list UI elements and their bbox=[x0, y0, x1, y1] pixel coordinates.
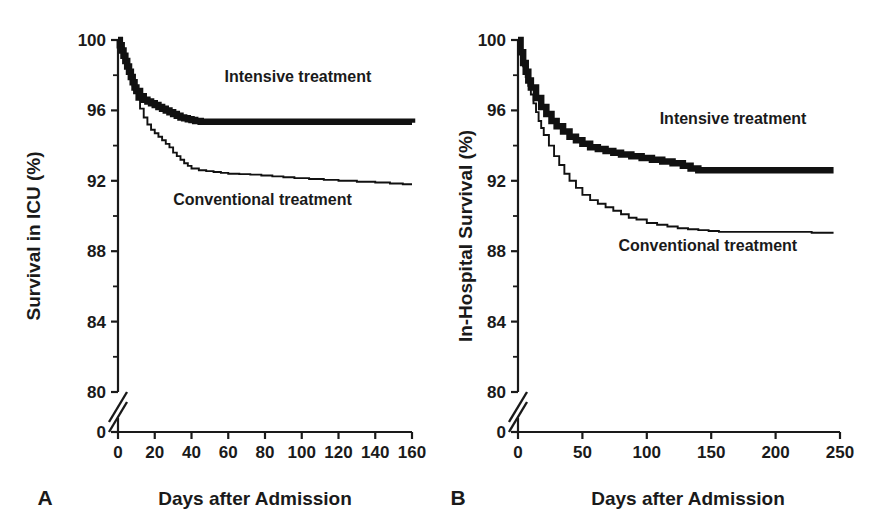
x-tick-label: 160 bbox=[398, 443, 426, 462]
curve-conventional bbox=[118, 40, 412, 184]
y-tick-label: 92 bbox=[487, 172, 506, 191]
panel-b-x-axis-title: Days after Admission bbox=[591, 488, 785, 509]
x-tick-label: 50 bbox=[573, 443, 592, 462]
panel-b-y-axis-title: In-Hospital Survival (%) bbox=[455, 130, 476, 342]
y-tick-label: 84 bbox=[487, 313, 506, 332]
panel-b-intensive-label: Intensive treatment bbox=[660, 110, 807, 127]
y-tick-label: 88 bbox=[487, 242, 506, 261]
panel-a-curves bbox=[118, 40, 412, 184]
panel-a-intensive-label: Intensive treatment bbox=[225, 68, 372, 85]
y-tick-label: 92 bbox=[87, 172, 106, 191]
y-tick-label: 88 bbox=[87, 242, 106, 261]
panel-b-letter: B bbox=[450, 486, 465, 509]
y-axis-break-zero-label: 0 bbox=[97, 423, 106, 442]
x-tick-label: 60 bbox=[219, 443, 238, 462]
x-tick-label: 100 bbox=[288, 443, 316, 462]
y-tick-label: 100 bbox=[478, 31, 506, 50]
x-tick-label: 0 bbox=[513, 443, 522, 462]
panel-b-plot: 80848892961000050100150200250 In-Hospita… bbox=[440, 0, 878, 528]
y-axis-break-zero-label: 0 bbox=[497, 423, 506, 442]
y-tick-label: 96 bbox=[87, 101, 106, 120]
curve-intensive bbox=[518, 40, 834, 170]
panel-b-conventional-label: Conventional treatment bbox=[618, 237, 797, 254]
x-tick-label: 20 bbox=[145, 443, 164, 462]
panel-a-y-axis-title: Survival in ICU (%) bbox=[23, 152, 44, 321]
x-tick-label: 0 bbox=[113, 443, 122, 462]
panel-a-x-axis-title: Days after Admission bbox=[158, 488, 352, 509]
y-tick-label: 80 bbox=[487, 383, 506, 402]
x-tick-label: 140 bbox=[361, 443, 389, 462]
y-tick-label: 80 bbox=[87, 383, 106, 402]
panel-a-letter: A bbox=[37, 486, 52, 509]
panel-b: 80848892961000050100150200250 In-Hospita… bbox=[440, 0, 878, 528]
y-tick-label: 84 bbox=[87, 313, 106, 332]
y-tick-label: 100 bbox=[78, 31, 106, 50]
panel-a-axes: 80848892961000020406080100120140160 bbox=[78, 31, 427, 462]
survival-figure: 80848892961000020406080100120140160 Surv… bbox=[0, 0, 878, 528]
panel-a-conventional-label: Conventional treatment bbox=[173, 191, 352, 208]
x-tick-label: 120 bbox=[324, 443, 352, 462]
x-tick-label: 40 bbox=[182, 443, 201, 462]
x-tick-label: 250 bbox=[826, 443, 854, 462]
x-tick-label: 80 bbox=[256, 443, 275, 462]
y-tick-label: 96 bbox=[487, 101, 506, 120]
x-tick-label: 200 bbox=[761, 443, 789, 462]
x-tick-label: 100 bbox=[633, 443, 661, 462]
panel-a-plot: 80848892961000020406080100120140160 Surv… bbox=[0, 0, 440, 528]
curve-conventional bbox=[518, 40, 834, 233]
panel-a: 80848892961000020406080100120140160 Surv… bbox=[0, 0, 440, 528]
panel-b-curves bbox=[518, 40, 834, 233]
x-tick-label: 150 bbox=[697, 443, 725, 462]
